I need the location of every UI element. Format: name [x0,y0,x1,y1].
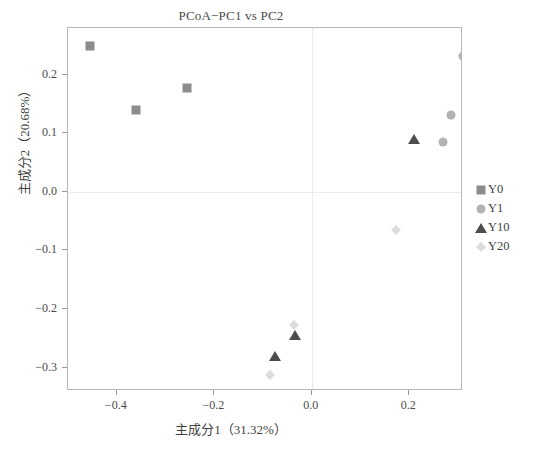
data-point-y1 [439,138,448,147]
y-axis-tick [62,191,67,192]
legend-item-y20[interactable]: Y20 [474,239,510,254]
legend-item-label: Y20 [488,240,510,253]
y-axis-tick [62,132,67,133]
plot-canvas [68,28,461,389]
y-axis-tick-label: −0.3 [35,359,57,374]
data-point-y10 [289,330,301,340]
legend-item-y1[interactable]: Y1 [474,201,510,216]
y-axis-tick-label: 0.2 [42,66,57,81]
y-axis-tick [62,308,67,309]
data-point-y10 [269,351,281,361]
data-point-y20 [391,225,401,235]
data-point-y20 [265,370,275,380]
data-point-y10 [408,134,420,144]
legend-item-label: Y0 [488,183,503,196]
legend-item-y10[interactable]: Y10 [474,220,510,235]
y-axis-tick-label: −0.2 [35,301,57,316]
x-axis-tick-label: 0.0 [303,398,318,413]
x-axis-tick [116,390,117,395]
x-axis-tick-label: 0.2 [401,398,416,413]
data-point-y20 [289,320,299,330]
x-axis-tick [213,390,214,395]
diamond-marker-icon [474,240,488,254]
x-axis-tick-label: −0.4 [105,398,127,413]
x-axis-label: 主成分1（31.32%） [0,419,462,438]
circle-marker-icon [474,202,488,216]
y-axis-tick-label: 0.0 [42,183,57,198]
pcoa-scatter-figure: PCoA−PC1 vs PC2 主成分2（20.68%） 主成分1（31.32%… [0,0,535,452]
x-axis-tick [311,390,312,395]
y-axis-tick [62,74,67,75]
y-axis-tick [62,249,67,250]
triangle-marker-icon [474,221,488,235]
data-point-y1 [446,110,455,119]
y-axis-tick-label: 0.1 [42,125,57,140]
reference-line-vertical [312,28,313,389]
data-point-y0 [132,105,141,114]
y-axis-label: 主成分2（20.68%） [14,40,33,240]
data-point-y1 [459,51,462,60]
x-axis-tick-label: −0.2 [202,398,224,413]
plot-area [67,27,462,390]
data-point-y0 [183,83,192,92]
legend-item-label: Y1 [488,202,503,215]
data-point-y0 [85,41,94,50]
legend-item-y0[interactable]: Y0 [474,182,510,197]
legend-item-label: Y10 [488,221,510,234]
x-axis-tick [408,390,409,395]
y-axis-tick [62,367,67,368]
chart-title: PCoA−PC1 vs PC2 [0,8,462,24]
reference-line-horizontal [68,192,461,193]
y-axis-tick-label: −0.1 [35,242,57,257]
square-marker-icon [474,183,488,197]
legend: Y0Y1Y10Y20 [474,182,510,254]
